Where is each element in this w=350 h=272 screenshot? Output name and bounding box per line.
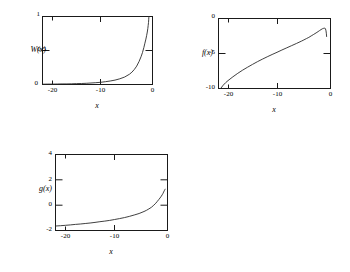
y-tick-label-g-2: 2 bbox=[43, 176, 52, 183]
plot-panel-g: g(x) -2 0 2 4 -20 -10 0 x bbox=[20, 140, 200, 272]
curve-g bbox=[56, 189, 165, 226]
y-axis-label-g: g(x) bbox=[22, 185, 52, 193]
plot-panel-f: f(x) -10 -5 0 -20 -10 0 x bbox=[175, 0, 350, 130]
x-ticks-f bbox=[229, 19, 331, 89]
x-ticks-w bbox=[53, 17, 153, 85]
y-tick-label-f-0: -10 bbox=[196, 84, 215, 91]
figure-panel-group: W(x) 0 0.5 1 -20 -10 0 x bbox=[0, 0, 350, 272]
axes-frame-g bbox=[56, 155, 168, 231]
y-tick-label-g-3: 4 bbox=[43, 150, 52, 157]
y-tick-label-f-1: -5 bbox=[201, 49, 215, 56]
x-tick-label-f-2: 0 bbox=[321, 91, 340, 98]
x-tick-label-g-1: -10 bbox=[103, 233, 126, 240]
y-tick-label-w-2: 1 bbox=[30, 11, 40, 18]
x-tick-label-f-1: -10 bbox=[266, 91, 289, 98]
x-tick-label-g-2: 0 bbox=[158, 233, 177, 240]
x-tick-label-w-0: -20 bbox=[41, 87, 64, 94]
y-tick-label-g-0: -2 bbox=[39, 226, 52, 233]
axes-frame-w bbox=[43, 17, 153, 85]
x-axis-label-f: x bbox=[262, 106, 286, 114]
y-ticks-w bbox=[43, 17, 153, 85]
x-axis-label-w: x bbox=[85, 102, 109, 110]
curve-w bbox=[43, 17, 149, 85]
plot-canvas-w bbox=[0, 0, 175, 130]
x-tick-label-f-0: -20 bbox=[217, 91, 240, 98]
y-tick-label-g-1: 0 bbox=[43, 201, 52, 208]
y-ticks-g bbox=[56, 155, 168, 231]
y-tick-label-w-1: 0.5 bbox=[32, 46, 46, 53]
x-tick-label-w-1: -10 bbox=[89, 87, 112, 94]
curve-f bbox=[221, 28, 327, 88]
plot-panel-w: W(x) 0 0.5 1 -20 -10 0 x bbox=[0, 0, 175, 130]
y-tick-label-w-0: 0 bbox=[22, 80, 38, 87]
y-tick-label-f-2: 0 bbox=[205, 13, 215, 20]
x-tick-label-w-2: 0 bbox=[143, 87, 162, 94]
x-axis-label-g: x bbox=[99, 248, 123, 256]
x-tick-label-g-0: -20 bbox=[54, 233, 77, 240]
